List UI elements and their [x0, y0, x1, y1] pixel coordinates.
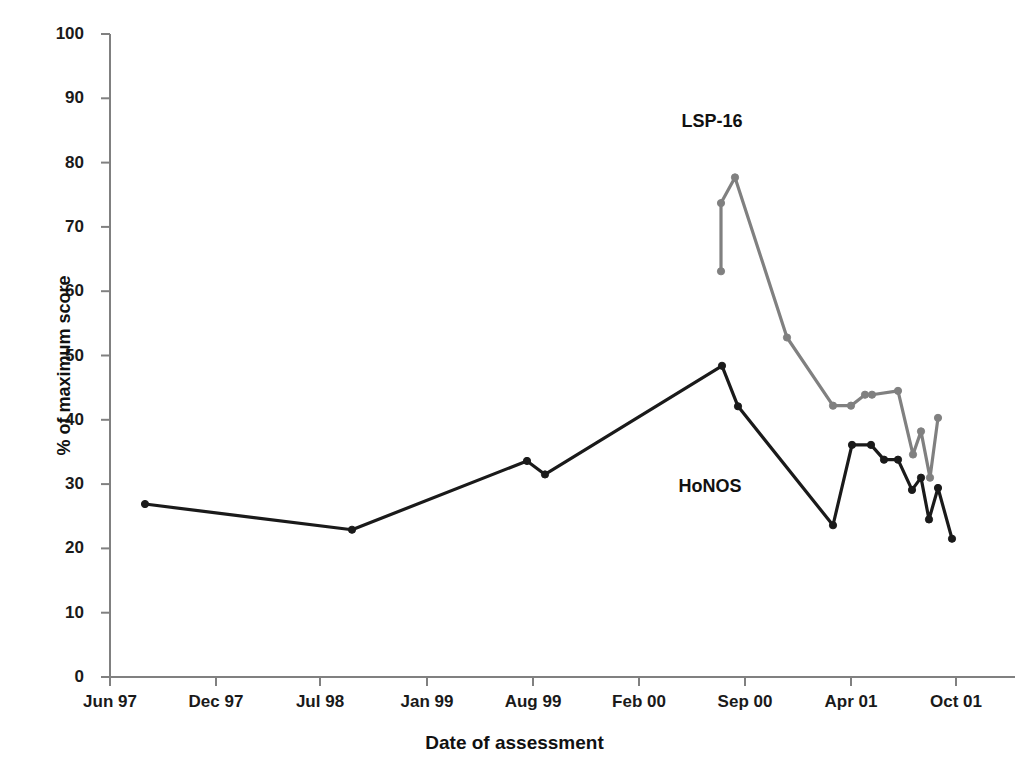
data-point-honos-2	[523, 457, 530, 464]
data-point-honos-11	[908, 486, 915, 493]
data-point-lsp-16-6	[861, 391, 868, 398]
data-point-honos-3	[541, 471, 548, 478]
series-label-lsp-16: LSP-16	[681, 111, 742, 132]
series-label-honos: HoNOS	[679, 476, 742, 497]
chart-plot-area	[0, 0, 1029, 783]
y-tick-label-90: 90	[28, 88, 84, 108]
y-axis-title: % of maximum score	[54, 236, 75, 496]
data-point-honos-4	[718, 362, 725, 369]
data-point-honos-1	[348, 526, 355, 533]
data-point-honos-6	[829, 522, 836, 529]
data-point-lsp-16-9	[909, 451, 916, 458]
y-tick-label-10: 10	[28, 603, 84, 623]
data-point-honos-12	[917, 474, 924, 481]
data-point-honos-0	[141, 500, 148, 507]
data-point-lsp-16-1	[717, 200, 724, 207]
data-point-lsp-16-12	[934, 414, 941, 421]
data-point-lsp-16-11	[926, 474, 933, 481]
data-point-lsp-16-2	[731, 174, 738, 181]
y-tick-label-100: 100	[28, 24, 84, 44]
data-point-lsp-16-7	[868, 391, 875, 398]
data-point-lsp-16-10	[917, 428, 924, 435]
chart-container: 0102030405060708090100 Jun 97Dec 97Jul 9…	[0, 0, 1029, 783]
data-point-honos-15	[948, 535, 955, 542]
series-line-honos	[145, 366, 952, 539]
series-line-lsp-16	[721, 177, 938, 477]
y-tick-label-80: 80	[28, 153, 84, 173]
x-axis-title: Date of assessment	[0, 732, 1029, 754]
x-tick-label-2: Jul 98	[296, 692, 344, 712]
x-tick-label-4: Aug 99	[505, 692, 562, 712]
x-tick-label-1: Dec 97	[189, 692, 244, 712]
data-point-honos-7	[848, 441, 855, 448]
y-tick-label-70: 70	[28, 217, 84, 237]
data-point-honos-14	[934, 484, 941, 491]
x-tick-label-5: Feb 00	[612, 692, 666, 712]
y-tick-label-0: 0	[28, 667, 84, 687]
x-tick-label-7: Apr 01	[825, 692, 878, 712]
data-point-honos-10	[894, 456, 901, 463]
data-point-honos-5	[734, 403, 741, 410]
data-point-honos-13	[925, 516, 932, 523]
x-tick-label-3: Jan 99	[401, 692, 454, 712]
data-point-lsp-16-0	[717, 268, 724, 275]
data-point-lsp-16-5	[847, 402, 854, 409]
data-point-lsp-16-8	[894, 387, 901, 394]
data-point-honos-8	[867, 441, 874, 448]
x-tick-label-8: Oct 01	[930, 692, 982, 712]
x-tick-label-0: Jun 97	[83, 692, 137, 712]
y-tick-label-20: 20	[28, 538, 84, 558]
data-point-lsp-16-4	[829, 402, 836, 409]
data-point-lsp-16-3	[783, 334, 790, 341]
x-tick-label-6: Sep 00	[718, 692, 773, 712]
data-point-honos-9	[880, 456, 887, 463]
